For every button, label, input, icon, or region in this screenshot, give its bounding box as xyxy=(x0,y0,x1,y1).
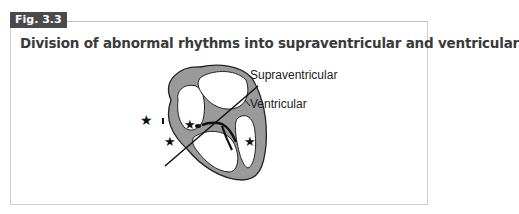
star-icon: ★ xyxy=(184,117,196,132)
star-icon: ★ xyxy=(244,134,256,149)
supraventricular-label: Supraventricular xyxy=(250,68,337,82)
ventricular-label: Ventricular xyxy=(250,97,307,111)
heart-shape xyxy=(162,65,266,180)
star-icon: ★ xyxy=(164,134,176,149)
star-icon: ★ xyxy=(140,112,153,128)
